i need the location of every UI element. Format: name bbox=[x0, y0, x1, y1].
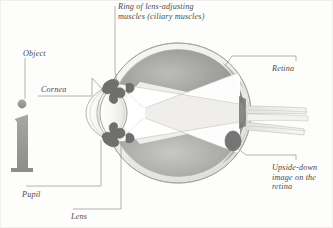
eye-diagram-illustration bbox=[0, 0, 333, 228]
eye-diagram: Ring of lens-adjusting muscles (ciliary … bbox=[0, 0, 333, 228]
ciliary-muscle-lower-small bbox=[126, 133, 134, 142]
inverted-image-spot bbox=[225, 131, 241, 151]
label-retina: Retina bbox=[272, 64, 294, 74]
label-cornea: Cornea bbox=[41, 85, 66, 95]
label-upside-down-image: Upside-down image on the retina bbox=[272, 163, 317, 192]
ciliary-muscle-upper-small bbox=[126, 83, 134, 92]
label-object: Object bbox=[23, 49, 46, 59]
label-ciliary-muscles: Ring of lens-adjusting muscles (ciliary … bbox=[118, 2, 205, 21]
leader-lens bbox=[73, 141, 121, 209]
label-pupil: Pupil bbox=[22, 190, 41, 200]
object-letter-i bbox=[11, 100, 33, 172]
leader-upside bbox=[236, 147, 296, 160]
leader-pupil bbox=[26, 140, 101, 186]
leader-ciliary bbox=[115, 6, 117, 82]
optic-nerve bbox=[246, 106, 308, 135]
label-lens: Lens bbox=[71, 212, 87, 222]
